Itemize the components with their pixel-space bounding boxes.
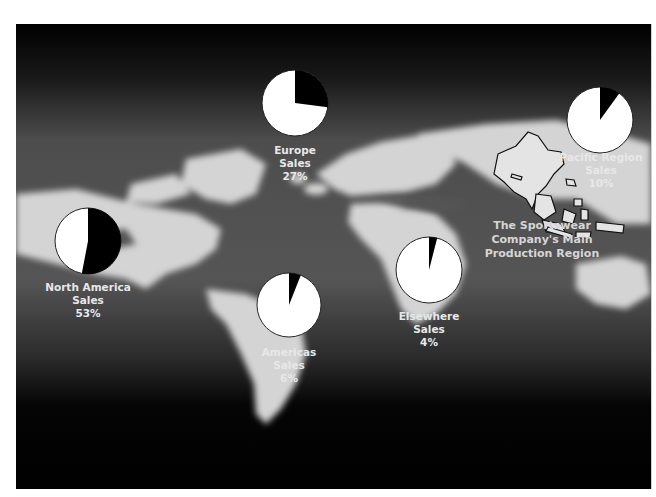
header-text [18,0,338,6]
label-north-america-line2: Sales [38,294,138,307]
label-americas-line1: Americas [254,346,324,359]
pie-europe [261,69,329,137]
pie-pacific [566,86,634,154]
label-elsewhere-pct: 4% [389,336,469,349]
annotation-line2: Company's Main [482,233,602,247]
label-pacific: Pacific Region Sales 10% [551,151,651,190]
production-region-annotation: The Sportswear Company's Main Production… [482,219,602,261]
label-americas: Americas Sales 6% [254,346,324,385]
pie-elsewhere [395,236,463,304]
label-europe-line2: Sales [260,157,330,170]
label-north-america-pct: 53% [38,307,138,320]
map-chart-panel: Europe Sales 27% Pacific Region Sales 10… [16,24,652,489]
pie-north-america [54,207,122,275]
label-north-america-line1: North America [38,281,138,294]
label-elsewhere-line2: Sales [389,323,469,336]
label-elsewhere: Elsewhere Sales 4% [389,310,469,349]
label-europe: Europe Sales 27% [260,144,330,183]
annotation-line1: The Sportswear [482,219,602,233]
label-north-america: North America Sales 53% [38,281,138,320]
label-pacific-line1: Pacific Region [551,151,651,164]
label-americas-pct: 6% [254,372,324,385]
pie-slice-europe [295,70,328,107]
label-europe-pct: 27% [260,170,330,183]
label-europe-line1: Europe [260,144,330,157]
annotation-line3: Production Region [482,247,602,261]
label-pacific-line2: Sales [551,164,651,177]
label-americas-line2: Sales [254,359,324,372]
label-pacific-pct: 10% [551,177,651,190]
label-elsewhere-line1: Elsewhere [389,310,469,323]
pie-americas [256,272,322,338]
